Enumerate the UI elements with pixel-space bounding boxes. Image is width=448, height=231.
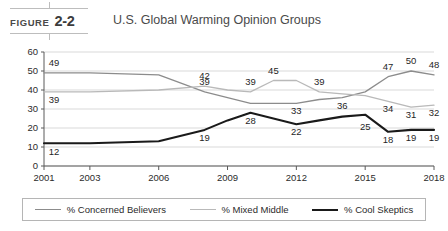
figure-header: FIGURE 2-2 U.S. Global Warming Opinion G… bbox=[0, 0, 448, 40]
data-point-label: 48 bbox=[429, 59, 440, 70]
legend-label: % Cool Skeptics bbox=[344, 204, 413, 215]
y-tick-label: 60 bbox=[27, 46, 38, 57]
legend-item[interactable]: % Mixed Middle bbox=[190, 204, 289, 215]
data-point-label: 32 bbox=[429, 107, 440, 118]
legend-item[interactable]: % Cool Skeptics bbox=[312, 204, 413, 215]
data-point-label: 19 bbox=[406, 132, 417, 143]
figure-tick-bottom bbox=[49, 33, 50, 40]
data-point-label: 39 bbox=[49, 94, 60, 105]
legend-line-icon bbox=[312, 209, 338, 211]
y-tick-label: 30 bbox=[27, 103, 38, 114]
data-point-label: 34 bbox=[383, 103, 394, 114]
figure-number: 2-2 bbox=[55, 13, 75, 29]
y-tick-label: 0 bbox=[33, 160, 38, 171]
legend-label: % Concerned Believers bbox=[67, 204, 166, 215]
x-tick-label: 2012 bbox=[286, 172, 307, 183]
data-point-label: 49 bbox=[49, 57, 60, 68]
data-point-label: 12 bbox=[49, 146, 60, 157]
figure-label: FIGURE 2-2 bbox=[10, 13, 75, 29]
legend-label: % Mixed Middle bbox=[222, 204, 289, 215]
data-point-label: 22 bbox=[291, 126, 302, 137]
data-point-label: 50 bbox=[406, 55, 417, 66]
data-point-label: 36 bbox=[337, 100, 348, 111]
y-tick-label: 20 bbox=[27, 122, 38, 133]
x-tick-label: 2001 bbox=[33, 172, 54, 183]
data-point-label: 19 bbox=[429, 132, 440, 143]
chart-container: 0102030405060200120032006200920122015201… bbox=[0, 42, 448, 194]
data-point-label: 19 bbox=[199, 132, 210, 143]
data-point-label: 28 bbox=[245, 115, 256, 126]
legend-line-icon bbox=[190, 209, 216, 210]
data-point-label: 42 bbox=[199, 70, 210, 81]
figure-tick-top bbox=[49, 2, 50, 9]
data-point-label: 45 bbox=[268, 65, 279, 76]
data-point-label: 33 bbox=[291, 105, 302, 116]
line-chart: 0102030405060200120032006200920122015201… bbox=[0, 42, 448, 194]
data-point-label: 39 bbox=[314, 76, 325, 87]
y-tick-label: 10 bbox=[27, 141, 38, 152]
legend-item[interactable]: % Concerned Believers bbox=[35, 204, 166, 215]
data-point-label: 25 bbox=[360, 121, 371, 132]
x-tick-label: 2018 bbox=[423, 172, 444, 183]
x-tick-label: 2009 bbox=[217, 172, 238, 183]
figure-word: FIGURE bbox=[10, 17, 50, 28]
legend-line-icon bbox=[35, 209, 61, 210]
x-tick-label: 2003 bbox=[79, 172, 100, 183]
y-tick-label: 40 bbox=[27, 84, 38, 95]
data-point-label: 31 bbox=[406, 109, 417, 120]
page-title: U.S. Global Warming Opinion Groups bbox=[113, 13, 321, 27]
data-point-label: 18 bbox=[383, 134, 394, 145]
data-point-label: 39 bbox=[245, 76, 256, 87]
x-tick-label: 2015 bbox=[355, 172, 376, 183]
data-point-label: 47 bbox=[383, 61, 394, 72]
y-tick-label: 50 bbox=[27, 65, 38, 76]
chart-legend: % Concerned Believers% Mixed Middle% Coo… bbox=[22, 198, 426, 221]
x-tick-label: 2006 bbox=[148, 172, 169, 183]
